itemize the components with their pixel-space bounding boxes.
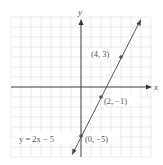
point-label-4-3: (4, 3) xyxy=(91,49,110,59)
point-label-0-neg5: (0, −5) xyxy=(85,134,108,144)
point-4-3 xyxy=(119,55,123,59)
line-bottom-arrow-icon xyxy=(72,149,77,156)
coordinate-plane: x y y = 2x − 5 (4, 3) (2, −1) (0, −5) xyxy=(0,0,163,165)
x-axis-label: x xyxy=(153,82,158,92)
point-0-neg5 xyxy=(79,134,83,138)
point-2-neg1 xyxy=(99,95,103,99)
point-label-2-neg1: (2, −1) xyxy=(104,96,127,106)
line-top-arrow-icon xyxy=(137,19,142,26)
y-axis-arrow-icon xyxy=(79,19,84,25)
equation-label: y = 2x − 5 xyxy=(19,134,54,144)
y-axis-label: y xyxy=(77,7,82,17)
